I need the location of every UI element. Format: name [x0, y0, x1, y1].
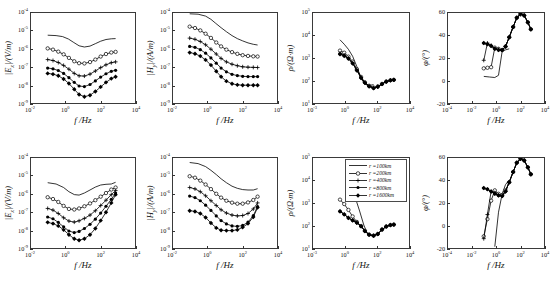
series-marker-3 [88, 83, 91, 86]
plot-svg [31, 158, 135, 248]
series-marker-4 [104, 210, 108, 214]
series-marker-1 [83, 205, 86, 208]
series-marker-3 [83, 85, 86, 88]
series-marker-1 [57, 50, 60, 53]
series-marker-4 [388, 223, 392, 227]
series-marker-1 [94, 198, 97, 201]
series-marker-2 [224, 60, 228, 64]
y-tick-mark [30, 30, 33, 31]
series-marker-2 [82, 216, 86, 220]
series-marker-1 [489, 66, 492, 69]
series-marker-1 [46, 196, 49, 199]
series-marker-4 [507, 35, 511, 39]
series-marker-3 [62, 72, 65, 75]
series-marker-2 [224, 211, 228, 215]
x-tick-mark [207, 101, 208, 104]
series-marker-4 [235, 228, 239, 232]
series-marker-2 [230, 213, 234, 217]
series-marker-3 [225, 222, 228, 225]
x-tick-mark [545, 246, 546, 249]
legend-symbol-diamond-icon [348, 192, 368, 199]
plot-area [30, 157, 136, 249]
series-line-0 [340, 40, 374, 86]
series-marker-4 [522, 158, 526, 162]
series-marker-2 [109, 61, 113, 65]
series-marker-4 [219, 228, 223, 232]
plot-area [447, 157, 545, 249]
series-marker-1 [110, 51, 113, 54]
series-marker-1 [204, 32, 207, 35]
x-tick-mark [496, 246, 497, 249]
series-marker-1 [51, 48, 54, 51]
series-marker-4 [240, 83, 244, 87]
x-axis-label: f /Hz [172, 260, 278, 270]
x-tick-mark [101, 246, 102, 249]
legend-label: r =1600km [368, 192, 394, 198]
series-marker-3 [204, 204, 207, 207]
x-tick-label: 102 [509, 106, 533, 113]
x-tick-label: 100 [53, 106, 77, 113]
y-tick-mark [30, 175, 33, 176]
series-marker-4 [187, 209, 191, 213]
series-marker-3 [51, 67, 54, 70]
y-tick-mark [30, 86, 33, 87]
x-tick-label: 10-2 [18, 106, 42, 113]
series-marker-1 [199, 179, 202, 182]
series-marker-3 [73, 231, 76, 234]
series-marker-1 [482, 67, 485, 70]
x-tick-label: 100 [195, 251, 219, 258]
x-tick-mark [472, 101, 473, 104]
y-axis-label: ρ/(Ω·m) [285, 157, 295, 249]
series-marker-1 [193, 26, 196, 29]
series-marker-1 [73, 60, 76, 63]
series-marker-1 [62, 204, 65, 207]
y-tick-mark [447, 58, 450, 59]
x-tick-label: 102 [365, 251, 389, 258]
y-tick-mark [172, 30, 175, 31]
x-axis-label: f /Hz [447, 115, 545, 125]
series-marker-1 [241, 53, 244, 56]
series-marker-4 [392, 78, 396, 82]
x-axis-label: f /Hz [172, 115, 278, 125]
series-line-1 [484, 159, 531, 237]
y-axis-label: φ/(°) [420, 12, 430, 104]
series-marker-2 [235, 64, 239, 68]
series-marker-3 [114, 69, 117, 72]
y-axis-label: |Ex|/(V/m) [3, 157, 13, 249]
x-axis-label: f /Hz [447, 260, 545, 270]
y-tick-mark [30, 194, 33, 195]
series-marker-1 [225, 199, 228, 202]
series-marker-1 [104, 52, 107, 55]
x-tick-label: 102 [231, 106, 255, 113]
y-axis-label: |Hy|/(A/m) [145, 157, 155, 249]
series-marker-2 [193, 37, 197, 41]
x-tick-mark [472, 246, 473, 249]
series-marker-2 [77, 74, 81, 78]
series-marker-4 [51, 72, 55, 76]
series-marker-4 [77, 238, 81, 242]
series-marker-4 [193, 209, 197, 213]
series-marker-1 [94, 58, 97, 61]
series-marker-2 [188, 185, 192, 189]
series-marker-4 [388, 78, 392, 82]
series-marker-4 [482, 186, 486, 190]
series-marker-2 [56, 61, 60, 65]
series-marker-4 [113, 75, 117, 79]
series-marker-4 [98, 218, 102, 222]
series-marker-4 [51, 221, 55, 225]
x-tick-label: 102 [89, 251, 113, 258]
legend-label: r =800km [368, 185, 391, 191]
legend-item: r =1600km [348, 192, 403, 199]
series-marker-1 [88, 202, 91, 205]
y-tick-mark [172, 49, 175, 50]
y-tick-mark [447, 81, 450, 82]
x-tick-label: 10-2 [160, 106, 184, 113]
series-marker-1 [77, 207, 80, 210]
series-marker-1 [246, 201, 249, 204]
series-marker-4 [45, 220, 49, 224]
series-marker-1 [204, 183, 207, 186]
series-marker-2 [193, 187, 197, 191]
y-axis-label: |Ex|/(V/m) [3, 12, 13, 104]
series-marker-3 [230, 73, 233, 76]
y-tick-mark [172, 194, 175, 195]
